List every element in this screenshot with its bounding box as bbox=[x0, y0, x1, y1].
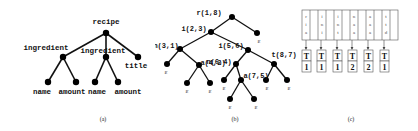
tree-node-t-8-7 bbox=[271, 61, 277, 67]
arrow-head-icon bbox=[336, 47, 339, 50]
caption-a: (a) bbox=[100, 116, 107, 123]
tree-node-i-5-6 bbox=[245, 47, 251, 53]
panel-c: r i a T 1 i n i T 1 i n t bbox=[300, 0, 418, 131]
epsilon-label: ε bbox=[186, 87, 189, 95]
node-label-name-1: name bbox=[33, 88, 52, 96]
tree-node-recipe bbox=[103, 30, 109, 36]
tree-node-amount-2 bbox=[115, 79, 121, 85]
tag-label: T bbox=[382, 52, 388, 61]
arrow-head-icon bbox=[305, 47, 308, 50]
arrow-head-icon bbox=[351, 47, 354, 50]
tag-label: T bbox=[350, 52, 356, 61]
structure-diagram-c: r i a T 1 i n i T 1 i n t bbox=[300, 0, 418, 131]
epsilon-label: ε bbox=[209, 87, 212, 95]
arrow-head-icon bbox=[320, 47, 323, 50]
node-label-amount-1: amount bbox=[58, 88, 85, 96]
tree-node-epsilon bbox=[254, 30, 260, 36]
node-label-ingredient-2: ingredient bbox=[80, 47, 125, 55]
tree-node-epsilon bbox=[184, 80, 190, 86]
arrow-head-icon bbox=[383, 47, 386, 50]
tree-node-epsilon bbox=[221, 77, 227, 83]
arrow-head-icon bbox=[367, 47, 370, 50]
count-label: 2 bbox=[351, 63, 355, 72]
tree-node-ingredient-1 bbox=[60, 54, 66, 60]
panel-a: recipe ingredient ingredient title name … bbox=[0, 0, 160, 131]
tree-node-epsilon bbox=[164, 61, 170, 67]
tree-node-epsilon bbox=[227, 96, 233, 102]
count-label: 1 bbox=[383, 63, 387, 72]
count-label: 1 bbox=[320, 63, 324, 72]
node-label-n-6-4: n(6,4) bbox=[206, 58, 231, 66]
caption-c: (c) bbox=[348, 116, 355, 123]
epsilon-label: ε bbox=[266, 84, 269, 92]
tree-diagram-b: r(1,8) i(2,3) n(3,1) i(5,6) a(4,2) n(6,4… bbox=[155, 0, 305, 131]
epsilon-label: ε bbox=[258, 37, 261, 45]
tag-label: T bbox=[319, 52, 325, 61]
epsilon-label: ε bbox=[223, 84, 226, 92]
nodes-a bbox=[45, 30, 141, 85]
node-label-title: title bbox=[125, 62, 148, 70]
tree-node-name-2 bbox=[92, 79, 98, 85]
header-array bbox=[302, 10, 398, 40]
epsilon-label: ε bbox=[288, 84, 291, 92]
caption-b: (b) bbox=[232, 116, 239, 123]
tree-diagram-a: recipe ingredient ingredient title name … bbox=[0, 0, 160, 131]
count-label: 1 bbox=[305, 63, 309, 72]
epsilon-label: ε bbox=[165, 68, 168, 76]
tree-node-epsilon bbox=[251, 96, 257, 102]
node-label-t-8-7: t(8,7) bbox=[271, 51, 296, 59]
labels-b: r(1,8) i(2,3) n(3,1) i(5,6) a(4,2) n(6,4… bbox=[155, 9, 297, 80]
count-label: 1 bbox=[336, 63, 340, 72]
count-label: 2 bbox=[367, 63, 371, 72]
epsilon-label: ε bbox=[229, 103, 232, 111]
node-label-recipe: recipe bbox=[92, 18, 120, 26]
node-label-ingredient-1: ingredient bbox=[23, 44, 68, 52]
labels-a: recipe ingredient ingredient title name … bbox=[23, 18, 147, 96]
node-label-n-3-1: n(3,1) bbox=[155, 42, 179, 50]
tag-label: T bbox=[366, 52, 372, 61]
tag-label: T bbox=[335, 52, 341, 61]
node-label-i-5-6: i(5,6) bbox=[218, 42, 243, 50]
tag-label: T bbox=[304, 52, 310, 61]
node-label-i-2-3: i(2,3) bbox=[181, 25, 206, 33]
panel-b: r(1,8) i(2,3) n(3,1) i(5,6) a(4,2) n(6,4… bbox=[155, 0, 305, 131]
tree-node-n-6-4 bbox=[233, 61, 239, 67]
tree-node-title bbox=[135, 54, 141, 60]
tree-node-epsilon bbox=[207, 80, 213, 86]
node-label-name-2: name bbox=[88, 88, 107, 96]
node-label-a-7-5: a(7,5) bbox=[243, 72, 268, 80]
tree-node-epsilon bbox=[284, 77, 290, 83]
node-label-r: r(1,8) bbox=[196, 9, 221, 17]
tree-node-amount-1 bbox=[73, 79, 79, 85]
tree-node-name-1 bbox=[45, 79, 51, 85]
epsilon-label: ε bbox=[255, 103, 258, 111]
tree-node-r bbox=[229, 14, 235, 20]
node-label-amount-2: amount bbox=[114, 88, 141, 96]
tree-node-i-2-3 bbox=[208, 29, 214, 35]
